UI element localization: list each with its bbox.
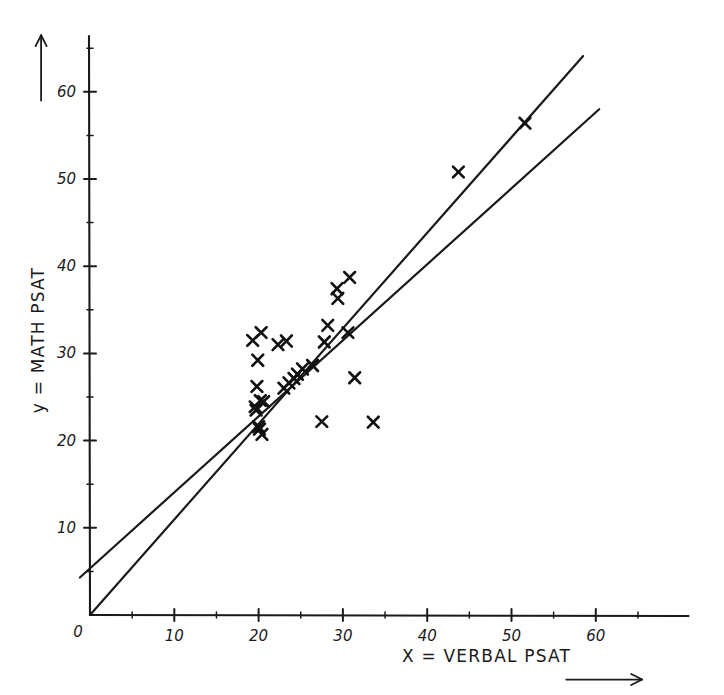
y-tick-label: 50 [57,170,76,188]
origin-label: 0 [73,623,83,641]
data-point [332,293,343,304]
ticks-group [84,48,638,621]
scatter-plot-figure: 1020304050601020304050600 X = VERBAL PSA… [0,0,724,695]
data-point [344,272,355,283]
least-squares-line [80,109,599,577]
axes-group [89,36,689,616]
y-tick-label: 60 [57,83,76,101]
data-point [319,337,330,348]
x-tick-label: 50 [502,627,521,645]
y-tick-label: 20 [57,432,76,450]
y-tick-label: 10 [57,519,76,537]
data-points-group [247,118,530,440]
x-axis-title: X = VERBAL PSAT [402,646,571,666]
line-through-origin [90,56,583,615]
x-tick-label: 60 [586,627,605,645]
x-tick-label: 10 [165,627,184,645]
plot-canvas: 1020304050601020304050600 X = VERBAL PSA… [0,0,724,695]
y-tick-label: 40 [57,257,76,275]
axis-arrows-group [36,35,643,685]
data-point [252,355,263,366]
data-point [453,167,464,178]
data-point [316,416,327,426]
data-point [349,372,360,383]
y-tick-label: 30 [57,344,76,362]
data-point [520,118,531,129]
x-tick-label: 20 [249,627,268,645]
regression-lines-group [80,56,599,615]
x-tick-label: 30 [333,627,352,645]
y-axis-title: y = MATH PSAT [28,267,48,413]
data-point [368,417,379,428]
data-point [322,320,333,331]
data-point [252,381,263,392]
x-tick-label: 40 [418,627,437,645]
x-axis-line [90,615,689,616]
data-point [256,327,267,338]
